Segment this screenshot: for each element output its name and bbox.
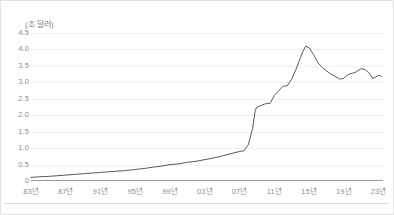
- y-tick-label: 1.5: [3, 128, 29, 136]
- y-tick-label: 4.0: [3, 45, 29, 53]
- x-tick-label: 95년: [127, 185, 143, 196]
- x-tick-label: 23년: [371, 185, 387, 196]
- x-tick-label: 99년: [162, 185, 178, 196]
- y-axis-unit-label: (조 달러): [25, 18, 54, 29]
- x-tick-label: 87년: [58, 185, 74, 196]
- x-tick-label: 11년: [267, 185, 282, 196]
- chart-figure: (조 달러) 4.54.03.53.02.52.01.51.00.50 83년8…: [0, 0, 394, 215]
- y-tick-label: 3.0: [3, 78, 29, 86]
- x-tick-label: 03년: [197, 185, 213, 196]
- plot-area: [31, 33, 383, 181]
- x-axis-tick-labels: 83년87년91년95년99년03년07년11년15년19년23년: [1, 185, 394, 199]
- x-tick-label: 83년: [23, 185, 39, 196]
- y-axis-tick-labels: 4.54.03.53.02.52.01.51.00.50: [1, 1, 29, 215]
- y-tick-label: 4.5: [3, 29, 29, 37]
- y-tick-label: 0: [3, 177, 29, 185]
- y-tick-label: 1.0: [3, 144, 29, 152]
- y-tick-label: 2.0: [3, 111, 29, 119]
- y-tick-label: 0.5: [3, 161, 29, 169]
- y-tick-label: 2.5: [3, 95, 29, 103]
- x-tick-label: 07년: [232, 185, 248, 196]
- x-tick-label: 15년: [301, 185, 317, 196]
- x-tick-label: 91년: [93, 185, 109, 196]
- bottom-divider: [5, 203, 389, 204]
- series-polyline: [31, 46, 381, 177]
- x-tick-label: 19년: [336, 185, 352, 196]
- series-line: [31, 33, 383, 181]
- y-tick-label: 3.5: [3, 62, 29, 70]
- x-axis-line: [31, 180, 383, 181]
